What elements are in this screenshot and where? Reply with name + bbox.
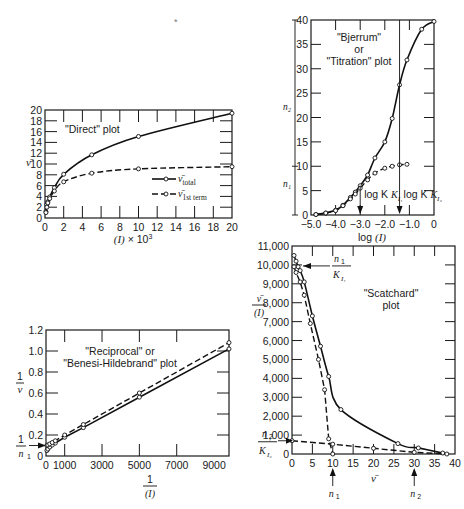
data-point: [390, 164, 394, 168]
y-tick-label: 5,000: [263, 353, 289, 365]
y-axis-label-n1: n₁: [283, 179, 291, 189]
data-point: [227, 341, 231, 345]
plot-frame: [311, 20, 434, 215]
annotation-log-k: log K KI₂: [404, 188, 443, 203]
x-tick-label: 40: [449, 457, 461, 469]
y-axis-label: 1ν: [16, 370, 24, 395]
y-tick-label: 10: [30, 158, 42, 170]
x-tick-label: 6: [98, 221, 104, 233]
svg-text:ν: ν: [18, 383, 23, 395]
x-tick-label: −4.0: [325, 218, 346, 230]
y-tick-label: 15: [296, 136, 308, 148]
data-point: [331, 452, 335, 456]
legend: ν̄totalν̄1st term: [152, 173, 207, 202]
annotation-n1: n1: [329, 468, 340, 500]
data-point: [62, 180, 66, 184]
y-tick-label: 5: [302, 185, 308, 197]
svg-text:n: n: [19, 448, 24, 459]
svg-text:I₁: I₁: [340, 275, 346, 283]
data-point: [331, 442, 335, 446]
x-tick-label: 0: [43, 459, 49, 471]
data-point: [230, 111, 234, 115]
svg-text:n: n: [334, 253, 339, 264]
data-point: [405, 162, 409, 166]
data-point: [310, 314, 314, 318]
data-point: [90, 171, 94, 175]
x-tick-label: −3.0: [350, 218, 371, 230]
y-tick-label: 6: [36, 180, 42, 192]
plot-title: or: [354, 43, 364, 55]
data-point: [137, 134, 141, 138]
scatchard-plot: 051015202530354001,0002,0003,0004,0005,0…: [252, 240, 461, 500]
data-point: [334, 209, 338, 213]
data-point: [137, 167, 141, 171]
data-point: [62, 172, 66, 176]
data-point: [432, 19, 436, 23]
data-point: [383, 140, 387, 144]
y-tick-label: 18: [30, 115, 42, 127]
x-tick-label: 0: [289, 457, 295, 469]
annotation-log-k: log K KI₁: [364, 188, 402, 203]
data-point: [302, 293, 306, 297]
x-tick-label: 25: [388, 457, 400, 469]
data-point: [390, 116, 394, 120]
data-point: [339, 408, 343, 412]
y-tick-label: 6,000: [263, 335, 289, 347]
data-point: [316, 357, 320, 361]
y-tick-label: 0: [283, 448, 289, 460]
data-point: [48, 197, 52, 201]
data-point: [137, 391, 141, 395]
x-tick-label: 3000: [90, 459, 114, 471]
svg-text:n: n: [262, 428, 267, 439]
series--total: [316, 22, 434, 215]
data-point: [445, 452, 449, 456]
data-point: [296, 265, 300, 269]
plot-title: "Titration" plot: [327, 55, 392, 67]
x-tick-label: 5000: [128, 459, 152, 471]
y-tick-label: 1.2: [28, 324, 43, 336]
data-point: [314, 213, 318, 217]
plot-title: plot: [383, 299, 400, 311]
svg-text:(I): (I): [254, 307, 265, 319]
x-tick-label: 18: [207, 221, 219, 233]
x-tick-label: 20: [368, 457, 380, 469]
data-point: [302, 280, 306, 284]
y-tick-label: 20: [30, 104, 42, 116]
y-axis-label-n2: n₂: [283, 102, 292, 112]
data-point: [416, 446, 420, 450]
x-tick-label: 10: [327, 457, 339, 469]
y-tick-label: 10,000: [257, 259, 289, 271]
x-axis-label: 1(I): [143, 473, 157, 500]
data-point: [90, 153, 94, 157]
direct-plot: 0246810121416182002468101214161820"Direc…: [26, 104, 238, 246]
y-tick-label: 14: [30, 136, 42, 148]
data-point: [298, 269, 302, 273]
svg-text:n: n: [329, 488, 334, 499]
reciprocal-plot: 01000300050007000900000.20.40.60.81.01.2…: [16, 324, 231, 500]
y-tick-label: 35: [296, 38, 308, 50]
data-point: [341, 204, 345, 208]
data-point: [373, 156, 377, 160]
annotation-n2: n2: [410, 468, 421, 500]
y-tick-label: 4: [36, 190, 42, 202]
x-tick-label: 4: [79, 221, 85, 233]
data-point: [327, 437, 331, 441]
x-tick-label: 15: [347, 457, 359, 469]
x-tick-label: 16: [189, 221, 201, 233]
x-axis-label: log (I): [358, 231, 386, 244]
series-2nd-term: [292, 441, 447, 454]
y-tick-label: 2,000: [263, 410, 289, 422]
y-tick-label: 30: [296, 63, 308, 75]
series-total: [294, 256, 443, 454]
data-point: [292, 253, 296, 257]
svg-text:K: K: [332, 269, 341, 280]
x-tick-label: 20: [226, 221, 238, 233]
data-point: [372, 446, 376, 450]
x-tick-label: 1000: [53, 459, 77, 471]
y-tick-label: 11,000: [258, 240, 289, 252]
y-tick-label: 25: [296, 87, 308, 99]
x-tick-label: 14: [170, 221, 182, 233]
data-point: [319, 344, 323, 348]
data-point: [348, 197, 352, 201]
y-tick-label: 9,000: [263, 278, 289, 290]
